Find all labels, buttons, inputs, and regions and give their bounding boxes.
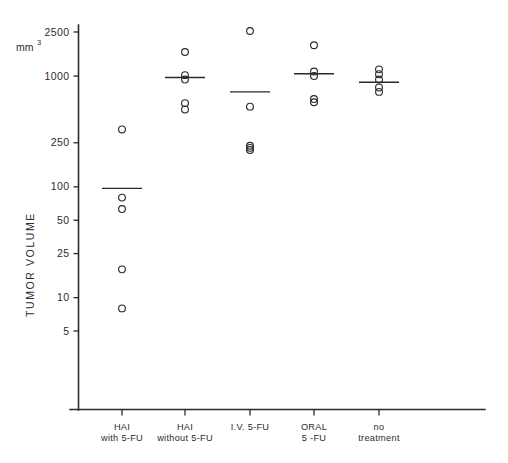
- x-tick-label: without 5-FU: [156, 433, 213, 443]
- y-axis-unit-label: mm 3: [16, 38, 41, 53]
- y-tick-label: 50: [57, 214, 69, 226]
- data-point: [119, 126, 126, 133]
- data-point: [311, 42, 318, 49]
- data-point: [182, 49, 189, 56]
- data-point: [247, 103, 254, 110]
- data-point: [376, 88, 383, 95]
- x-tick-label: no: [374, 422, 385, 432]
- svg-text:mm: mm: [16, 41, 34, 53]
- x-axis-ticks: HAIwith 5-FUHAIwithout 5-FUI.V. 5-FUORAL…: [100, 410, 400, 443]
- tumor-volume-dot-plot: 250010002501005025105 HAIwith 5-FUHAIwit…: [0, 0, 508, 463]
- y-tick-label: 5: [63, 325, 69, 337]
- plot-area: [102, 28, 399, 312]
- y-tick-label: 10: [57, 291, 69, 303]
- x-tick-label: 5 -FU: [302, 433, 326, 443]
- y-tick-label: 100: [51, 180, 70, 192]
- x-tick-label: treatment: [358, 433, 400, 443]
- y-axis-ticks: 250010002501005025105: [45, 26, 79, 337]
- data-point: [119, 194, 126, 201]
- x-tick-label: HAI: [114, 422, 130, 432]
- y-tick-label: 250: [51, 136, 70, 148]
- x-tick-label: with 5-FU: [100, 433, 143, 443]
- y-tick-label: 25: [57, 247, 69, 259]
- y-tick-label: 1000: [45, 70, 70, 82]
- data-point: [119, 206, 126, 213]
- chart-canvas: 250010002501005025105 HAIwith 5-FUHAIwit…: [0, 0, 508, 463]
- x-tick-label: I.V. 5-FU: [231, 422, 270, 432]
- data-point: [119, 266, 126, 273]
- y-axis-title: TUMOR VOLUME: [24, 212, 36, 317]
- axes-group: [70, 25, 485, 410]
- x-tick-label: ORAL: [301, 422, 327, 432]
- y-tick-label: 2500: [45, 26, 70, 38]
- data-point: [119, 305, 126, 312]
- data-point: [247, 28, 254, 35]
- svg-text:3: 3: [37, 38, 41, 47]
- x-tick-label: HAI: [177, 422, 193, 432]
